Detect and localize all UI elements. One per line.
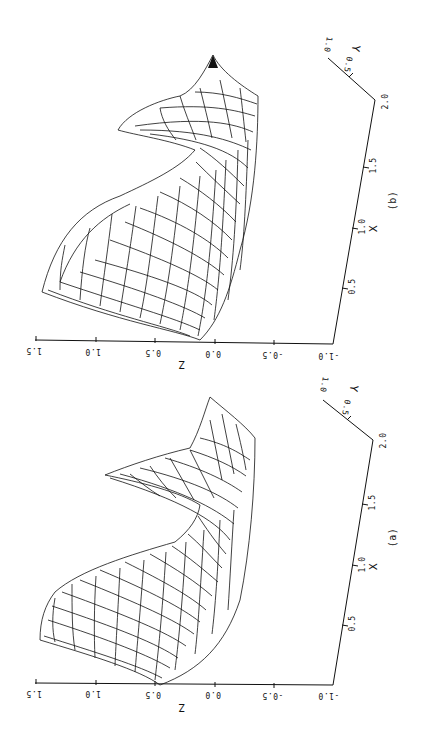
z-tick-b-0: 1.5 bbox=[26, 346, 42, 355]
x-tick-a-3: 2.0 bbox=[379, 433, 388, 449]
z-tick-a-4: -0.5 bbox=[262, 691, 283, 700]
z-tick-a-0: 1.5 bbox=[26, 689, 42, 698]
x-tick-b-2: 1.5 bbox=[369, 158, 378, 174]
panel-label-b: (b) bbox=[387, 191, 398, 211]
z-tick-a-2: 0.5 bbox=[145, 690, 161, 699]
x-tick-b-3: 2.0 bbox=[381, 94, 390, 110]
z-axis-line bbox=[35, 340, 333, 344]
z-tick-b-3: 0.0 bbox=[205, 349, 221, 358]
x-axis-label-a: X bbox=[367, 563, 380, 570]
z-tick-a-1: 1.0 bbox=[85, 689, 101, 698]
x-tick-b-0: 0.5 bbox=[348, 279, 357, 295]
z-tick-b-1: 1.0 bbox=[85, 347, 101, 356]
z-tick-b-2: 0.5 bbox=[145, 348, 161, 357]
wireframe-b bbox=[42, 55, 258, 340]
z-axis-line bbox=[35, 683, 333, 685]
z-tick-b-4: -0.5 bbox=[262, 350, 283, 359]
surface-plot-b bbox=[0, 0, 422, 370]
figure: 1.5 1.0 0.5 0.0 -0.5 -1.0 Z 0.5 1.0 X 1.… bbox=[0, 0, 422, 740]
x-tick-a-2: 1.5 bbox=[368, 495, 377, 511]
z-axis-label-a: Z bbox=[178, 701, 185, 714]
wireframe-a bbox=[40, 397, 255, 685]
surface-plot-a bbox=[0, 370, 422, 740]
x-tick-a-0: 0.5 bbox=[348, 616, 357, 632]
panel-label-a: (a) bbox=[387, 528, 398, 548]
z-tick-a-3: 0.0 bbox=[205, 690, 221, 699]
panel-a: 1.5 1.0 0.5 0.0 -0.5 -1.0 Z 0.5 1.0 X 1.… bbox=[0, 370, 422, 740]
panel-b: 1.5 1.0 0.5 0.0 -0.5 -1.0 Z 0.5 1.0 X 1.… bbox=[0, 0, 422, 370]
x-axis-line bbox=[333, 100, 375, 344]
z-tick-b-5: -1.0 bbox=[318, 351, 339, 360]
z-tick-a-5: -1.0 bbox=[318, 691, 339, 700]
x-axis-label-b: X bbox=[367, 225, 380, 232]
